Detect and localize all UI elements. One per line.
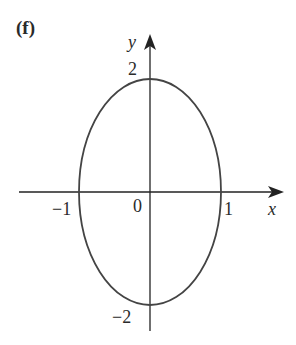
ellipse-diagram: (f) x y −1 0 1 2 −2 bbox=[0, 0, 296, 345]
x-tick-minus-1: −1 bbox=[52, 199, 71, 219]
x-axis-label: x bbox=[267, 199, 276, 219]
y-tick-minus-2: −2 bbox=[112, 307, 131, 327]
panel-label: (f) bbox=[16, 17, 35, 39]
x-tick-1: 1 bbox=[224, 199, 233, 219]
y-tick-2: 2 bbox=[128, 59, 137, 79]
y-axis-label: y bbox=[126, 32, 136, 52]
x-tick-0: 0 bbox=[133, 196, 142, 216]
